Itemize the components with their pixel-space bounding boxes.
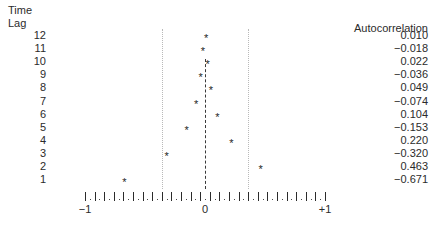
axis-tick-minor — [147, 199, 148, 200]
axis-tick-major — [296, 192, 297, 201]
axis-tick-major — [143, 192, 144, 201]
axis-tick-major — [306, 192, 307, 201]
axis-tick-minor — [157, 199, 158, 200]
axis-tick-minor — [272, 199, 273, 200]
axis-tick-minor — [109, 199, 110, 200]
axis-tick-label: +1 — [305, 203, 345, 215]
axis-tick-minor — [195, 199, 196, 200]
axis-tick-major — [95, 192, 96, 201]
axis-tick-major — [219, 192, 220, 201]
axis-tick-major — [114, 192, 115, 201]
axis-tick-major — [277, 192, 278, 201]
axis-tick-major — [325, 192, 326, 201]
axis-tick-major — [181, 192, 182, 201]
axis-tick-minor — [186, 199, 187, 200]
axis-tick-major — [239, 192, 240, 201]
x-axis-ruler: −10+1 — [0, 0, 434, 231]
axis-tick-minor — [99, 199, 100, 200]
axis-tick-major — [248, 192, 249, 201]
axis-tick-major — [104, 192, 105, 201]
axis-tick-minor — [119, 199, 120, 200]
axis-tick-major — [171, 192, 172, 201]
axis-tick-major — [229, 192, 230, 201]
axis-tick-minor — [224, 199, 225, 200]
axis-tick-minor — [291, 199, 292, 200]
axis-tick-minor — [301, 199, 302, 200]
axis-tick-minor — [90, 199, 91, 200]
axis-tick-minor — [253, 199, 254, 200]
acf-plot-panel: Time Lag 121110987654321 Autocorrelation… — [0, 0, 434, 231]
axis-tick-minor — [282, 199, 283, 200]
axis-tick-label: −1 — [65, 203, 105, 215]
axis-tick-major — [267, 192, 268, 201]
axis-tick-major — [258, 192, 259, 201]
axis-tick-minor — [215, 199, 216, 200]
axis-tick-minor — [167, 199, 168, 200]
axis-tick-minor — [128, 199, 129, 200]
axis-tick-minor — [176, 199, 177, 200]
axis-tick-minor — [263, 199, 264, 200]
axis-tick-major — [162, 192, 163, 201]
axis-tick-major — [123, 192, 124, 201]
axis-tick-major — [191, 192, 192, 201]
axis-tick-major — [85, 192, 86, 201]
axis-tick-major — [210, 192, 211, 201]
axis-tick-major — [133, 192, 134, 201]
axis-tick-major — [287, 192, 288, 201]
axis-tick-major — [200, 192, 201, 201]
axis-tick-minor — [320, 199, 321, 200]
axis-tick-minor — [234, 199, 235, 200]
axis-tick-major — [152, 192, 153, 201]
axis-tick-minor — [138, 199, 139, 200]
axis-tick-minor — [205, 199, 206, 200]
axis-tick-label: 0 — [185, 203, 225, 215]
axis-tick-major — [315, 192, 316, 201]
axis-tick-minor — [311, 199, 312, 200]
axis-tick-minor — [243, 199, 244, 200]
